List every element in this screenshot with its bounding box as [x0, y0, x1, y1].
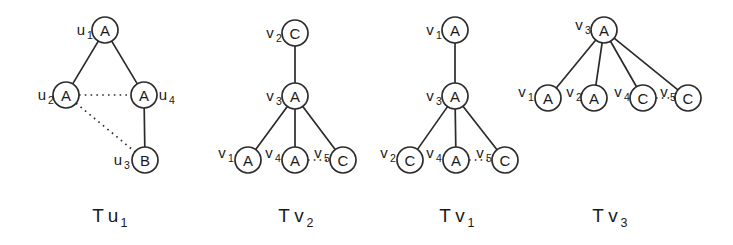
edge-v3-v2 — [596, 43, 602, 85]
vertex-label-v2: v — [380, 144, 388, 161]
node-letter: A — [243, 152, 253, 169]
node-letter: C — [638, 90, 649, 107]
tree-v2-caption: Tv2 — [278, 205, 313, 230]
vertex-label-v1: v — [426, 21, 434, 38]
node-letter: A — [61, 87, 71, 104]
node-letter: A — [139, 87, 149, 104]
node-letter: A — [599, 22, 609, 39]
tree-v1-node-v5[interactable]: Cv5 — [476, 144, 518, 173]
vertex-label-v2: v — [566, 83, 574, 100]
node-letter: B — [140, 152, 150, 169]
vertex-label-v3: v — [266, 87, 274, 104]
vertex-label-subscript-v5: 5 — [670, 91, 676, 103]
vertex-label-subscript-u1: 1 — [87, 29, 93, 41]
tree-u1-caption: Tu1 — [92, 205, 127, 230]
tree-v1-caption: Tv1 — [439, 205, 474, 230]
tree-v1: Av1Av3Cv2Av4Cv5Tv1 — [380, 17, 518, 230]
vertex-label-subscript-v3: 3 — [436, 95, 442, 107]
vertex-label-subscript-v3: 3 — [276, 95, 282, 107]
edge-v3-v4 — [610, 41, 636, 86]
node-letter: C — [683, 90, 694, 107]
edge-u1-u4 — [112, 41, 138, 84]
tree-v1-node-v1[interactable]: Av1 — [426, 17, 468, 43]
tree-v3-node-v2[interactable]: Av2 — [566, 83, 607, 111]
tree-u1: Au1Au2Au4Bu3Tu1 — [38, 17, 175, 230]
tree-v2-node-v2[interactable]: Cv2 — [266, 20, 308, 46]
vertex-label-u3: u — [114, 151, 122, 168]
vertex-label-subscript-v3: 3 — [585, 24, 591, 36]
vertex-label-subscript-v5: 5 — [486, 152, 492, 164]
tree-u1-node-u1[interactable]: Au1 — [77, 17, 118, 43]
diagram-canvas: Au1Au2Au4Bu3Tu1Cv2Av3Av1Av4Cv5Tv2Av1Av3C… — [0, 0, 733, 245]
vertex-label-subscript-v5: 5 — [324, 152, 330, 164]
vertex-label-v4: v — [614, 83, 622, 100]
edge-u4-u3 — [144, 108, 145, 147]
tree-v1-node-v2[interactable]: Cv2 — [380, 144, 423, 173]
tree-v3-node-v3[interactable]: Av3 — [575, 16, 617, 43]
tree-v1-node-v3[interactable]: Av3 — [426, 83, 468, 109]
vertex-label-v5: v — [314, 144, 322, 161]
node-letter: C — [290, 25, 301, 42]
vertex-label-v3: v — [575, 16, 583, 33]
edge-v3-v4 — [455, 109, 456, 147]
vertex-label-subscript-v4: 4 — [436, 152, 442, 164]
caption-subscript: 3 — [621, 216, 628, 230]
vertex-label-subscript-v4: 4 — [624, 91, 630, 103]
tree-v2: Cv2Av3Av1Av4Cv5Tv2 — [218, 20, 356, 230]
tree-v2-node-v1[interactable]: Av1 — [218, 144, 261, 173]
tree-v3-node-v4[interactable]: Cv4 — [614, 83, 656, 111]
vertex-label-u2: u — [38, 86, 46, 103]
vertex-label-v4: v — [265, 144, 273, 161]
tree-u1-node-u2[interactable]: Au2 — [38, 82, 79, 108]
caption-var: v — [294, 205, 304, 226]
node-letter: A — [589, 90, 599, 107]
caption-subscript: 1 — [121, 216, 128, 230]
vertex-label-subscript-v2: 2 — [576, 91, 582, 103]
edge-u1-u2 — [73, 41, 99, 84]
node-letter: A — [290, 152, 300, 169]
tree-diagram-figure: Au1Au2Au4Bu3Tu1Cv2Av3Av1Av4Cv5Tv2Av1Av3C… — [0, 0, 733, 245]
vertex-label-subscript-v1: 1 — [528, 91, 534, 103]
vertex-label-v2: v — [266, 24, 274, 41]
vertex-label-v3: v — [426, 87, 434, 104]
vertex-label-subscript-v4: 4 — [275, 152, 281, 164]
vertex-label-subscript-v1: 1 — [228, 152, 234, 164]
tree-v2-node-v3[interactable]: Av3 — [266, 83, 308, 109]
caption-T: T — [92, 205, 104, 226]
caption-var: v — [608, 205, 618, 226]
caption-var: u — [108, 205, 119, 226]
tree-v1-node-v4[interactable]: Av4 — [426, 144, 469, 173]
node-letter: A — [451, 152, 461, 169]
node-letter: A — [543, 90, 553, 107]
tree-u1-node-u3[interactable]: Bu3 — [114, 147, 158, 173]
vertex-label-subscript-u3: 3 — [124, 159, 130, 171]
node-letter: C — [338, 152, 349, 169]
caption-T: T — [439, 205, 451, 226]
node-letter: A — [100, 22, 110, 39]
node-letter: A — [450, 88, 460, 105]
trees-root: Au1Au2Au4Bu3Tu1Cv2Av3Av1Av4Cv5Tv2Av1Av3C… — [38, 16, 701, 230]
vertex-label-v5: v — [476, 144, 484, 161]
vertex-label-v4: v — [426, 144, 434, 161]
tree-v3-node-v1[interactable]: Av1 — [518, 83, 561, 111]
vertex-label-u1: u — [77, 21, 85, 38]
caption-var: v — [455, 205, 465, 226]
node-letter: C — [500, 152, 511, 169]
tree-u1-node-u4[interactable]: Au4 — [131, 82, 175, 108]
vertex-label-subscript-u2: 2 — [48, 94, 54, 106]
tree-v3-node-v5[interactable]: Cv5 — [660, 83, 701, 111]
edge-v3-v2 — [417, 107, 447, 150]
tree-v3-caption: Tv3 — [592, 205, 627, 230]
node-letter: A — [450, 22, 460, 39]
caption-subscript: 1 — [468, 216, 475, 230]
vertex-label-subscript-u4: 4 — [169, 94, 175, 106]
vertex-label-v1: v — [518, 83, 526, 100]
node-letter: A — [290, 88, 300, 105]
vertex-label-v1: v — [218, 144, 226, 161]
node-letter: C — [405, 152, 416, 169]
vertex-label-u4: u — [159, 86, 167, 103]
edge-v3-v1 — [556, 40, 595, 88]
caption-T: T — [278, 205, 290, 226]
edge-u2-u3 — [76, 103, 135, 151]
tree-v2-node-v4[interactable]: Av4 — [265, 144, 308, 173]
